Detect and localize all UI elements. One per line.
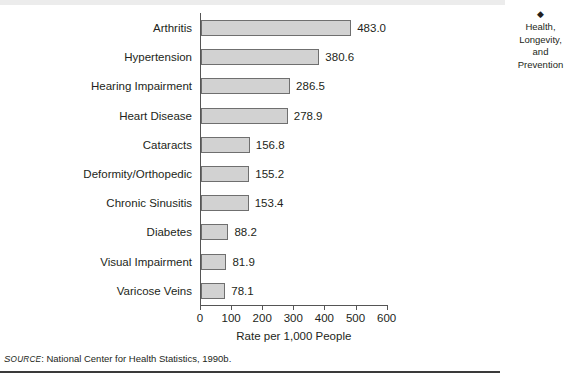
x-tick-label: 600: [367, 312, 407, 324]
bar-row: Varicose Veins78.1: [0, 277, 505, 306]
bar[interactable]: [201, 137, 250, 153]
x-tick: [356, 306, 357, 310]
bar-row: Chronic Sinusitis153.4: [0, 189, 505, 218]
bar-wrapper: [201, 277, 225, 306]
x-tick: [262, 306, 263, 310]
x-tick: [324, 306, 325, 310]
bar-value-label: 380.6: [325, 43, 354, 72]
bar-wrapper: [201, 160, 249, 189]
bar-value-label: 483.0: [357, 14, 386, 43]
bar-row: Diabetes88.2: [0, 218, 505, 247]
bottom-rule: [0, 371, 500, 373]
category-label: Chronic Sinusitis: [0, 189, 192, 218]
bar-row: Hearing Impairment286.5: [0, 72, 505, 101]
bar-value-label: 155.2: [255, 160, 284, 189]
source-note: SOURCE: National Center for Health Stati…: [4, 353, 231, 364]
x-tick: [231, 306, 232, 310]
bar[interactable]: [201, 224, 228, 240]
bar-row: Heart Disease278.9: [0, 102, 505, 131]
bar[interactable]: [201, 108, 288, 124]
margin-sidebar: ◆ Health,Longevity,andPrevention: [505, 0, 576, 378]
bar[interactable]: [201, 166, 249, 182]
bar-row: Deformity/Orthopedic155.2: [0, 160, 505, 189]
bar-row: Visual Impairment81.9: [0, 248, 505, 277]
bar-row: Hypertension380.6: [0, 43, 505, 72]
marginal-title-line: and: [505, 46, 576, 59]
category-label: Deformity/Orthopedic: [0, 160, 192, 189]
bar-wrapper: [201, 189, 249, 218]
category-label: Visual Impairment: [0, 248, 192, 277]
bar-row: Cataracts156.8: [0, 131, 505, 160]
bar[interactable]: [201, 49, 319, 65]
bar-row: Arthritis483.0: [0, 14, 505, 43]
marginal-title: Health,Longevity,andPrevention: [505, 21, 576, 71]
source-label-rest: OURCE: [11, 355, 42, 364]
y-axis-line: [200, 13, 201, 305]
figure-container: Arthritis483.0Hypertension380.6Hearing I…: [0, 5, 505, 378]
marginal-title-line: Longevity,: [505, 34, 576, 47]
bar[interactable]: [201, 78, 290, 94]
bar-chart-plot: Arthritis483.0Hypertension380.6Hearing I…: [0, 5, 505, 305]
x-tick: [293, 306, 294, 310]
bar-wrapper: [201, 43, 319, 72]
bar-value-label: 78.1: [231, 277, 253, 306]
source-text: : National Center for Health Statistics,…: [41, 353, 231, 364]
source-label: SOURCE: [4, 355, 41, 364]
marginal-title-line: Health,: [505, 21, 576, 34]
bar-wrapper: [201, 14, 351, 43]
bar-value-label: 286.5: [296, 72, 325, 101]
bar-wrapper: [201, 131, 250, 160]
category-label: Hearing Impairment: [0, 72, 192, 101]
category-label: Heart Disease: [0, 102, 192, 131]
bar-wrapper: [201, 248, 226, 277]
bar[interactable]: [201, 283, 225, 299]
bar-value-label: 156.8: [256, 131, 285, 160]
bar-value-label: 81.9: [232, 248, 254, 277]
category-label: Hypertension: [0, 43, 192, 72]
category-label: Cataracts: [0, 131, 192, 160]
x-tick: [200, 306, 201, 310]
bar-value-label: 278.9: [294, 102, 323, 131]
bar[interactable]: [201, 254, 226, 270]
diamond-icon: ◆: [505, 9, 576, 19]
category-label: Varicose Veins: [0, 277, 192, 306]
bar[interactable]: [201, 195, 249, 211]
category-label: Diabetes: [0, 218, 192, 247]
category-label: Arthritis: [0, 14, 192, 43]
bar[interactable]: [201, 20, 351, 36]
bar-value-label: 153.4: [255, 189, 284, 218]
x-tick: [387, 306, 388, 310]
bar-wrapper: [201, 218, 228, 247]
bar-value-label: 88.2: [234, 218, 256, 247]
source-label-initial: S: [4, 353, 11, 364]
marginal-title-line: Prevention: [505, 59, 576, 72]
bar-wrapper: [201, 102, 288, 131]
x-axis-title: Rate per 1,000 People: [200, 330, 388, 342]
bar-wrapper: [201, 72, 290, 101]
